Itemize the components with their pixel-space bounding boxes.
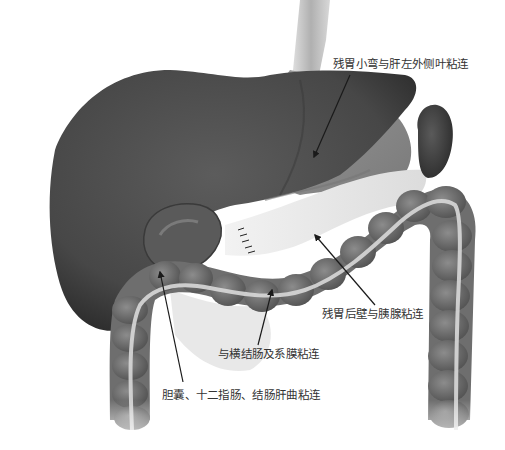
- label-gallbladder-duodenum-hepatic-flexure-adhesion: 胆囊、十二指肠、结肠肝曲粘连: [162, 386, 320, 402]
- bottom-fade: [100, 400, 490, 450]
- gallbladder-shape: [144, 204, 222, 272]
- esophagus-shape: [292, 0, 330, 80]
- label-posterior-wall-pancreas-adhesion: 残胃后壁与胰腺粘连: [322, 305, 424, 321]
- anatomy-illustration: 残胃小弯与肝左外侧叶粘连 残胃后壁与胰腺粘连 与横结肠及系膜粘连 胆囊、十二指肠…: [0, 0, 505, 450]
- spleen-shape: [417, 105, 452, 178]
- label-lesser-curvature-liver-adhesion: 残胃小弯与肝左外侧叶粘连: [333, 55, 469, 71]
- label-transverse-colon-mesentery-adhesion: 与横结肠及系膜粘连: [218, 345, 320, 361]
